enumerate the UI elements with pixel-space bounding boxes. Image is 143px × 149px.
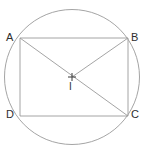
center-cross — [68, 73, 76, 81]
vertex-label-d: D — [6, 109, 14, 120]
geometry-figure: A B C D I — [0, 0, 143, 149]
radius-BI — [72, 38, 128, 77]
vertex-label-b: B — [131, 32, 138, 43]
center-label-i: I — [69, 81, 72, 92]
vertex-label-c: C — [131, 109, 139, 120]
diagram-canvas — [0, 0, 143, 149]
vertex-label-a: A — [6, 32, 13, 43]
